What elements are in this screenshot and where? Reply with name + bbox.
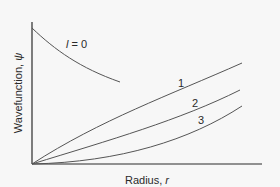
curve-l0 — [32, 28, 120, 82]
curve-1 — [32, 63, 242, 164]
label-2: 2 — [192, 97, 198, 109]
label-l0: l = 0 — [66, 38, 87, 50]
x-axis-label: Radius, r — [125, 174, 170, 186]
wavefunction-chart: l = 0 1 2 3 Radius, r Wavefunction, ψ — [0, 0, 280, 187]
label-1: 1 — [178, 77, 184, 89]
curve-3 — [32, 106, 242, 164]
y-axis-label: Wavefunction, ψ — [12, 53, 24, 133]
curve-2 — [32, 90, 240, 164]
label-3: 3 — [198, 114, 204, 126]
